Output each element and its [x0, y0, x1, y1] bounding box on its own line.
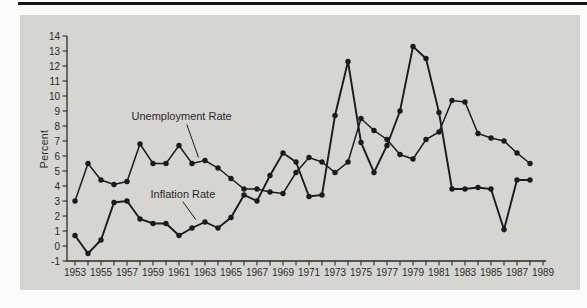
x-tick-label: 1987: [506, 267, 529, 278]
x-tick-label: 1953: [64, 267, 87, 278]
x-tick-label: 1971: [298, 267, 321, 278]
data-point: [163, 161, 168, 166]
y-tick-label: 8: [54, 121, 60, 132]
data-point: [254, 186, 259, 191]
data-point: [124, 179, 129, 184]
data-point: [423, 137, 428, 142]
y-tick-label: 4: [54, 181, 60, 192]
data-point: [358, 116, 363, 121]
y-tick-label: 12: [49, 61, 61, 72]
data-point: [410, 44, 415, 49]
data-point: [254, 198, 259, 203]
data-point: [124, 198, 129, 203]
y-tick-label: 13: [49, 46, 61, 57]
data-point: [189, 161, 194, 166]
data-point: [306, 155, 311, 160]
x-tick-label: 1961: [168, 267, 191, 278]
x-tick-label: 1963: [194, 267, 217, 278]
data-point: [527, 177, 532, 182]
chart-canvas: 14131211109876543210-1195319551957195919…: [0, 0, 587, 308]
data-point: [189, 225, 194, 230]
data-point: [202, 219, 207, 224]
x-tick-label: 1985: [480, 267, 503, 278]
y-tick-label: 1: [54, 226, 60, 237]
data-point: [436, 129, 441, 134]
y-tick-label: 11: [50, 76, 61, 87]
x-tick-label: 1967: [246, 267, 269, 278]
data-point: [527, 161, 532, 166]
x-tick-label: 1969: [272, 267, 295, 278]
data-point: [397, 152, 402, 157]
x-tick-label: 1975: [350, 267, 373, 278]
data-point: [150, 161, 155, 166]
data-point: [332, 113, 337, 118]
x-tick-label: 1989: [532, 267, 555, 278]
data-point: [371, 170, 376, 175]
data-point: [228, 215, 233, 220]
data-point: [215, 165, 220, 170]
data-point: [488, 135, 493, 140]
data-point: [436, 110, 441, 115]
data-point: [202, 158, 207, 163]
data-point: [293, 159, 298, 164]
data-point: [267, 189, 272, 194]
data-point: [98, 237, 103, 242]
x-tick-label: 1965: [220, 267, 243, 278]
data-point: [488, 186, 493, 191]
data-point: [475, 185, 480, 190]
data-point: [358, 140, 363, 145]
x-tick-label: 1981: [428, 267, 451, 278]
inflation-series: [72, 44, 532, 256]
data-point: [371, 128, 376, 133]
series-layer: [72, 44, 532, 256]
y-tick-label: 6: [54, 151, 60, 162]
x-tick-label: 1957: [116, 267, 139, 278]
data-point: [384, 143, 389, 148]
data-point: [267, 173, 272, 178]
data-point: [241, 192, 246, 197]
x-tick-label: 1983: [454, 267, 477, 278]
data-point: [501, 227, 506, 232]
y-tick-label: 2: [54, 211, 60, 222]
y-tick-label: 5: [54, 166, 60, 177]
data-point: [85, 161, 90, 166]
x-tick-label: 1955: [90, 267, 113, 278]
data-point: [98, 177, 103, 182]
data-point: [280, 191, 285, 196]
data-point: [410, 156, 415, 161]
data-point: [397, 108, 402, 113]
axes-layer: 14131211109876543210-1195319551957195919…: [49, 31, 555, 279]
data-point: [462, 99, 467, 104]
data-point: [475, 131, 480, 136]
data-point: [176, 233, 181, 238]
y-tick-label: 9: [54, 106, 60, 117]
data-point: [319, 192, 324, 197]
data-point: [332, 170, 337, 175]
y-tick-label: 10: [49, 91, 61, 102]
inflation-rate-label: Inflation Rate: [150, 188, 215, 200]
data-point: [137, 216, 142, 221]
x-tick-label: 1973: [324, 267, 347, 278]
y-tick-label: 7: [54, 136, 60, 147]
x-tick-label: 1959: [142, 267, 165, 278]
data-point: [306, 194, 311, 199]
data-point: [72, 198, 77, 203]
data-point: [111, 182, 116, 187]
annotation-pointer-line: [187, 125, 199, 158]
data-point: [228, 176, 233, 181]
data-point: [176, 143, 181, 148]
unemployment-rate-label: Unemployment Rate: [131, 110, 231, 122]
data-point: [514, 150, 519, 155]
x-tick-label: 1979: [402, 267, 425, 278]
annotation-pointer-layer: [183, 125, 199, 220]
data-point: [85, 251, 90, 256]
y-axis-title: Percent: [38, 130, 50, 168]
data-point: [514, 177, 519, 182]
data-point: [319, 159, 324, 164]
data-point: [501, 138, 506, 143]
data-point: [111, 200, 116, 205]
data-point: [449, 98, 454, 103]
data-point: [462, 186, 467, 191]
data-point: [72, 233, 77, 238]
data-point: [449, 186, 454, 191]
